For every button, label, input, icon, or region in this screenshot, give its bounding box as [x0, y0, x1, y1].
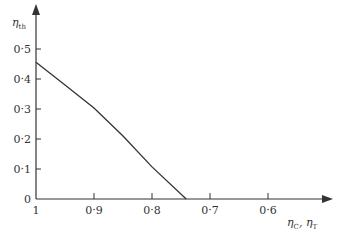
y-tick-label: 0: [24, 193, 31, 206]
x-tick-label: 0·6: [259, 204, 277, 217]
x-tick-label: 0·7: [201, 204, 219, 217]
y-axis-arrow-icon: [32, 4, 40, 15]
y-tick-label: 0·5: [14, 43, 32, 56]
y-axis-label: ηth: [12, 16, 26, 31]
x-tick-label: 0·9: [85, 204, 103, 217]
x-axis-arrow-icon: [322, 195, 333, 203]
y-tick-label: 0·4: [14, 73, 32, 86]
y-ticks: 00·10·20·30·40·5: [14, 43, 42, 206]
x-tick-label: 0·8: [143, 204, 161, 217]
x-axis-label: ηC, ηT: [287, 216, 318, 231]
y-tick-label: 0·3: [14, 103, 32, 116]
x-tick-label: 1: [33, 204, 40, 217]
chart: 00·10·20·30·40·5 10·90·80·70·6 ηth ηC, η…: [0, 0, 340, 237]
x-ticks: 10·90·80·70·6: [33, 193, 277, 217]
y-tick-label: 0·2: [14, 133, 32, 146]
y-tick-label: 0·1: [14, 163, 32, 176]
efficiency-curve: [36, 62, 186, 199]
